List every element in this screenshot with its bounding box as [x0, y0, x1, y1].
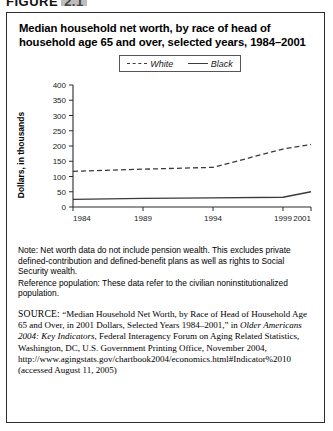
y-axis-label: Dollars, in thousands — [16, 112, 26, 199]
figure-title: Median household net worth, by race of h… — [19, 22, 312, 49]
x-axis-ticks: 19841989199419992001 — [73, 207, 312, 223]
note-text: Note: Net worth data do not include pens… — [18, 245, 313, 277]
legend-entry-white: White — [127, 59, 173, 69]
figure-number: 2.1 — [61, 0, 87, 6]
figure-box: Median household net worth, by race of h… — [6, 12, 325, 423]
plot-wrap: Dollars, in thousands 050100150200250300… — [15, 79, 314, 229]
series-line-black — [73, 192, 311, 200]
series-line-white — [73, 144, 311, 171]
reference-population-text: Reference population: These data refer t… — [18, 278, 313, 299]
y-tick-label: 100 — [53, 173, 67, 182]
legend-entry-black: Black — [188, 59, 233, 69]
x-tick-label: 2001 — [293, 214, 311, 223]
legend-swatch-solid-icon — [188, 63, 208, 64]
y-tick-label: 350 — [53, 96, 67, 105]
figure-kicker: FIGURE2.1 — [6, 0, 87, 6]
chart-notes: Note: Net worth data do not include pens… — [18, 245, 313, 299]
y-tick-label: 400 — [53, 81, 67, 90]
x-tick-label: 1999 — [274, 214, 292, 223]
chart-area: White Black Dollars, in thousands 050100… — [15, 55, 314, 235]
source-citation: SOURCE: “Median Household Net Worth, by … — [18, 308, 313, 376]
legend-swatch-dashed-icon — [127, 63, 147, 64]
source-kicker: SOURCE: — [18, 308, 60, 319]
y-tick-label: 50 — [57, 188, 66, 197]
line-chart: Dollars, in thousands 050100150200250300… — [15, 79, 316, 229]
data-series-group — [73, 144, 311, 199]
y-tick-label: 300 — [53, 112, 67, 121]
x-tick-label: 1989 — [134, 214, 152, 223]
legend-label-white: White — [150, 59, 173, 69]
figure-kicker-word: FIGURE — [6, 0, 58, 6]
y-tick-label: 150 — [53, 157, 67, 166]
x-tick-label: 1994 — [204, 214, 222, 223]
y-axis-label-group: Dollars, in thousands — [16, 112, 26, 199]
y-tick-label: 0 — [62, 203, 67, 212]
y-tick-label: 200 — [53, 142, 67, 151]
y-axis-ticks: 050100150200250300350400 — [53, 81, 73, 212]
y-tick-label: 250 — [53, 127, 67, 136]
legend-label-black: Black — [211, 59, 233, 69]
x-tick-label: 1984 — [73, 214, 91, 223]
chart-legend: White Black — [119, 55, 241, 72]
